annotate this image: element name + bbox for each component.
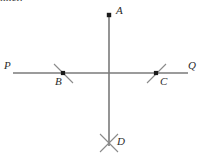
cut-off-caption-text: nner. bbox=[0, 0, 23, 2]
endpoint-label-P: P bbox=[4, 60, 11, 71]
point-label-A: A bbox=[116, 5, 123, 16]
endpoint-label-Q: Q bbox=[188, 60, 196, 71]
point-A-marker bbox=[107, 13, 111, 17]
point-label-D: D bbox=[117, 136, 125, 147]
point-label-B: B bbox=[55, 76, 62, 87]
point-label-C: C bbox=[160, 76, 167, 87]
geometry-figure: nner. A B C D P Q bbox=[0, 0, 204, 154]
figure-canvas bbox=[0, 0, 204, 154]
point-C-marker bbox=[154, 71, 158, 75]
